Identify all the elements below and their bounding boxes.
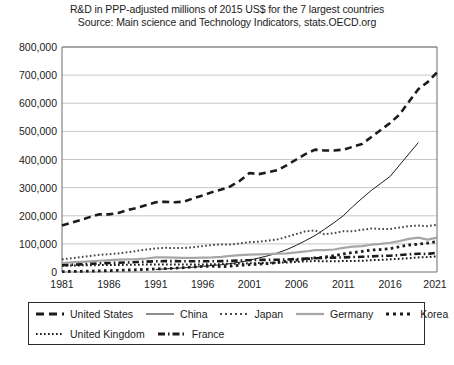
legend-item-china[interactable]: China <box>145 308 219 320</box>
legend-swatch-thick-dashed <box>35 309 65 319</box>
legend-label: Korea <box>420 308 448 320</box>
x-tick-label: 1991 <box>144 278 168 290</box>
x-tick-label: 2011 <box>332 278 355 290</box>
legend-label: Germany <box>330 308 373 320</box>
legend-swatch-fine-dotted <box>35 329 65 339</box>
chart-legend: United States China Japan Germany Korea <box>28 302 425 345</box>
legend-label: China <box>180 308 207 320</box>
legend-label: United Kingdom <box>70 328 145 340</box>
legend-swatch-bold-dotted <box>385 309 415 319</box>
legend-row-2: United Kingdom France <box>29 324 424 344</box>
y-tick-label: 700,000 <box>19 69 57 81</box>
legend-swatch-fine-dotted <box>219 309 249 319</box>
series-line-korea <box>62 242 437 272</box>
legend-swatch-dash-dot <box>157 329 187 339</box>
chart-figure: R&D in PPP-adjusted millions of 2015 US$… <box>0 0 454 365</box>
y-tick-label: 100,000 <box>19 238 57 250</box>
legend-row-1: United States China Japan Germany Korea <box>29 304 424 324</box>
y-tick-label: 400,000 <box>19 154 57 166</box>
x-tick-label: 2021 <box>423 278 447 290</box>
x-tick-label: 1986 <box>97 278 121 290</box>
legend-item-united-kingdom[interactable]: United Kingdom <box>35 328 157 340</box>
legend-item-japan[interactable]: Japan <box>219 308 295 320</box>
x-tick-label: 1996 <box>191 278 215 290</box>
x-tick-label: 2001 <box>238 278 262 290</box>
figure-caption <box>8 354 448 365</box>
x-tick-label: 2006 <box>285 278 309 290</box>
x-tick-label: 1981 <box>50 278 74 290</box>
y-axis-tick-labels: 800,000 700,000 600,000 500,000 400,000 … <box>19 41 57 278</box>
x-axis-tick-labels: 1981 1986 1991 1996 2001 2006 2011 2016 … <box>50 278 447 290</box>
grid-lines <box>62 47 437 244</box>
series-line-united-states <box>62 72 437 225</box>
chart-plot-area: 800,000 700,000 600,000 500,000 400,000 … <box>0 0 454 300</box>
legend-swatch-thin-solid <box>145 309 175 319</box>
legend-item-korea[interactable]: Korea <box>385 308 454 320</box>
y-tick-label: 200,000 <box>19 210 57 222</box>
legend-label: United States <box>70 308 133 320</box>
series-line-china <box>156 143 419 270</box>
legend-item-france[interactable]: France <box>157 328 237 340</box>
legend-label: Japan <box>254 308 283 320</box>
y-tick-label: 600,000 <box>19 97 57 109</box>
data-series-layer <box>62 72 437 271</box>
legend-label: France <box>192 328 225 340</box>
y-tick-label: 500,000 <box>19 125 57 137</box>
y-tick-label: 800,000 <box>19 41 57 53</box>
x-tick-label: 2016 <box>378 278 402 290</box>
y-tick-label: 0 <box>51 266 57 278</box>
legend-swatch-thick-gray-solid <box>295 309 325 319</box>
y-tick-label: 300,000 <box>19 182 57 194</box>
legend-item-united-states[interactable]: United States <box>35 308 145 320</box>
legend-item-germany[interactable]: Germany <box>295 308 385 320</box>
